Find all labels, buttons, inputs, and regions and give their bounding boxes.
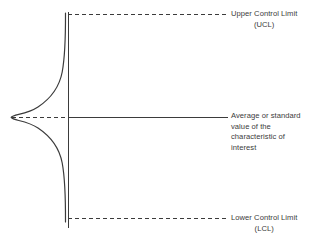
center-line-label-line4: interest xyxy=(231,143,301,154)
center-line-label-line1: Average or standard xyxy=(231,111,301,122)
lower-control-limit-label-line1: Lower Control Limit xyxy=(231,213,297,224)
control-chart-diagram: Upper Control Limit (UCL) Average or sta… xyxy=(0,0,328,245)
lower-control-limit-label-line2: (LCL) xyxy=(231,224,297,235)
lower-control-limit-label: Lower Control Limit (LCL) xyxy=(231,213,297,234)
upper-control-limit-label-line1: Upper Control Limit xyxy=(231,9,297,20)
upper-control-limit-label-line2: (UCL) xyxy=(231,20,297,31)
upper-control-limit-label: Upper Control Limit (UCL) xyxy=(231,9,297,30)
center-line-label-line2: value of the xyxy=(231,122,301,133)
center-line-label-line3: characteristic of xyxy=(231,132,301,143)
center-line-label: Average or standard value of the charact… xyxy=(231,111,301,153)
